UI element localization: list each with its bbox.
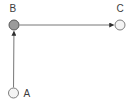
edges-layer <box>14 25 114 88</box>
node-C <box>115 20 125 30</box>
diagram-canvas: ABC <box>0 0 131 105</box>
node-B <box>9 20 19 30</box>
diagram: ABC <box>0 0 131 105</box>
node-label-C: C <box>117 3 124 14</box>
node-label-A: A <box>24 88 31 99</box>
node-A <box>9 88 19 98</box>
node-label-B: B <box>10 3 17 14</box>
nodes-layer: ABC <box>9 3 126 99</box>
